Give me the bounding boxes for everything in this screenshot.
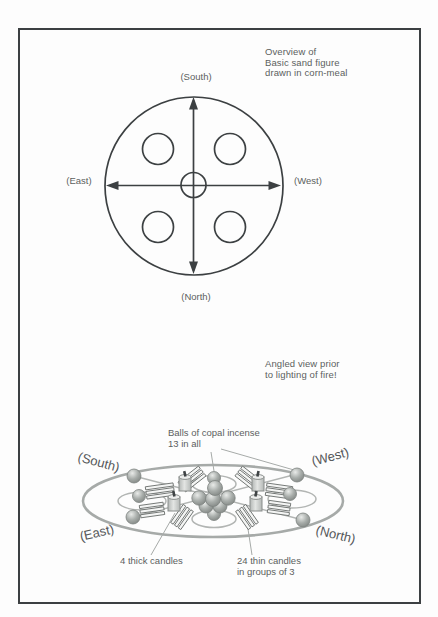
incense-ball-quadrant bbox=[284, 488, 297, 501]
annotation-thin-candles: 24 thin candles in groups of 3 bbox=[237, 556, 301, 577]
incense-ball-west-end bbox=[290, 468, 304, 482]
annotation-thick-candles: 4 thick candles bbox=[120, 556, 183, 567]
thick-candle bbox=[252, 471, 264, 491]
thin-bundle bbox=[267, 500, 291, 515]
arrowhead-up bbox=[189, 97, 198, 110]
overview-caption: Overview of Basic sand figure drawn in c… bbox=[265, 47, 348, 79]
incense-ball-quadrant bbox=[133, 490, 146, 503]
quadrant-circle-top-right bbox=[215, 134, 246, 165]
thick-candle bbox=[250, 491, 262, 511]
overview-label-north: (North) bbox=[181, 292, 211, 303]
quadrant-circle-bottom-left bbox=[143, 212, 174, 243]
overview-sand-figure bbox=[105, 97, 283, 275]
overview-label-west: (West) bbox=[294, 176, 322, 187]
overview-label-south: (South) bbox=[180, 72, 211, 83]
angled-sand-figure bbox=[83, 449, 343, 555]
arrowhead-right bbox=[269, 181, 282, 190]
overview-label-east: (East) bbox=[66, 176, 91, 187]
arrowhead-down bbox=[189, 262, 198, 275]
incense-ball-center-cluster bbox=[192, 481, 235, 514]
scanned-figure-page: Overview of Basic sand figure drawn in c… bbox=[0, 0, 438, 617]
angled-caption: Angled view prior to lighting of fire! bbox=[265, 359, 340, 380]
incense-ball-north-end bbox=[296, 513, 310, 527]
annotation-incense-balls: Balls of copal incense 13 in all bbox=[168, 428, 260, 449]
thin-bundle bbox=[139, 502, 164, 518]
diagram-canvas bbox=[0, 0, 438, 617]
quadrant-circle-bottom-right bbox=[215, 212, 246, 243]
incense-ball-east-end bbox=[126, 510, 140, 524]
arrowhead-left bbox=[106, 181, 119, 190]
incense-ball-south-end bbox=[127, 469, 141, 483]
quadrant-circle-top-left bbox=[143, 134, 174, 165]
